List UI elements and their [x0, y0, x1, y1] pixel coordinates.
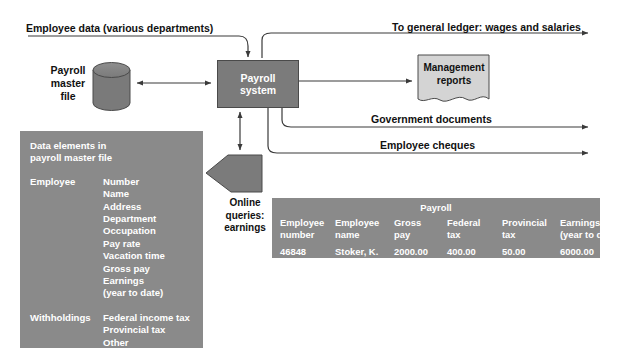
list-item: Provincial tax: [103, 324, 190, 336]
table-column: Federal tax 400.00: [447, 217, 502, 258]
list-item: Department: [103, 213, 165, 225]
data-elements-group-employee: Employee Number Name Address Department …: [30, 176, 203, 300]
table-header-line1: Gross: [394, 217, 447, 229]
master-file-label-line3: file: [44, 90, 92, 103]
list-item: Vacation time: [103, 250, 165, 262]
payroll-system-process[interactable]: Payroll system: [217, 60, 299, 108]
online-queries-label: Online queries: earnings: [215, 197, 275, 235]
payroll-table-grid: Employee number 46848 Employee name Stok…: [272, 217, 600, 258]
list-item: Number: [103, 176, 165, 188]
table-header-line1: Employee: [335, 217, 394, 229]
table-header-line2: (year to date): [560, 229, 621, 241]
data-elements-group-values: Number Name Address Department Occupatio…: [103, 176, 165, 300]
data-elements-title-line2: payroll master file: [30, 152, 203, 164]
table-header-line1: Federal: [447, 217, 502, 229]
table-header-line1: Provincial: [502, 217, 560, 229]
payroll-system-label-line1: Payroll: [240, 72, 275, 84]
table-header-line1: Earnings: [560, 217, 621, 229]
data-elements-group-withholdings: Withholdings Federal income tax Provinci…: [30, 312, 203, 349]
list-item: (year to date): [103, 287, 165, 299]
table-header-line2: pay: [394, 229, 447, 241]
payroll-table: Payroll Employee number 46848 Employee n…: [272, 198, 600, 258]
data-elements-group-key: Withholdings: [30, 312, 103, 349]
flow-label-employee-data: Employee data (various departments): [26, 22, 213, 34]
table-column-header: Earnings (year to date): [560, 217, 621, 241]
list-item: Federal income tax: [103, 312, 190, 324]
data-elements-group-values: Federal income tax Provincial tax Other: [103, 312, 190, 349]
data-elements-title: Data elements in payroll master file: [30, 140, 203, 165]
list-item: Earnings: [103, 275, 165, 287]
data-elements-panel: Data elements in payroll master file Emp…: [20, 131, 203, 348]
flow-general-ledger-line: [262, 33, 588, 58]
table-cell: 46848: [280, 246, 335, 258]
table-column-header: Provincial tax: [502, 217, 560, 241]
table-column: Employee name Stoker, K.: [335, 217, 394, 258]
data-elements-group-key: Employee: [30, 176, 103, 300]
management-reports-label: Management reports: [420, 62, 488, 87]
table-cell: Stoker, K.: [335, 246, 394, 258]
table-cell: 400.00: [447, 246, 502, 258]
data-elements-title-line1: Data elements in: [30, 140, 203, 152]
list-item: Occupation: [103, 225, 165, 237]
master-file-label-line2: master: [44, 77, 92, 90]
table-header-line2: tax: [502, 229, 560, 241]
table-cell: 50.00: [502, 246, 560, 258]
payroll-system-label-line2: system: [240, 84, 276, 96]
table-column-header: Employee name: [335, 217, 394, 241]
table-cell: 6000.00: [560, 246, 621, 258]
table-column: Provincial tax 50.00: [502, 217, 560, 258]
diagram-canvas: Payroll system Payroll master file Manag…: [0, 0, 621, 363]
table-header-line2: name: [335, 229, 394, 241]
list-item: Pay rate: [103, 238, 165, 250]
online-queries-label-line3: earnings: [215, 222, 275, 235]
flow-label-government-documents: Government documents: [371, 113, 492, 125]
flow-label-employee-cheques: Employee cheques: [380, 139, 475, 151]
master-file-label-line1: Payroll: [44, 64, 92, 77]
table-header-line2: tax: [447, 229, 502, 241]
payroll-master-file-label: Payroll master file: [44, 64, 92, 103]
list-item: Gross pay: [103, 263, 165, 275]
table-column-header: Gross pay: [394, 217, 447, 241]
table-column: Gross pay 2000.00: [394, 217, 447, 258]
table-column: Employee number 46848: [280, 217, 335, 258]
flow-employee-data-line: [28, 36, 248, 57]
online-queries-label-line2: queries:: [215, 210, 275, 223]
list-item: Address: [103, 201, 165, 213]
table-header-line2: number: [280, 229, 335, 241]
payroll-master-file-cylinder: [93, 63, 130, 111]
mgmt-reports-label-line2: reports: [420, 75, 488, 88]
table-column-header: Employee number: [280, 217, 335, 241]
online-queries-shape: [206, 155, 262, 192]
flow-label-general-ledger: To general ledger: wages and salaries: [392, 21, 581, 33]
list-item: Other: [103, 337, 190, 349]
mgmt-reports-label-line1: Management: [420, 62, 488, 75]
table-cell: 2000.00: [394, 246, 447, 258]
list-item: Name: [103, 188, 165, 200]
table-column-header: Federal tax: [447, 217, 502, 241]
table-header-line1: Employee: [280, 217, 335, 229]
online-queries-label-line1: Online: [215, 197, 275, 210]
table-column: Earnings (year to date) 6000.00: [560, 217, 621, 258]
payroll-table-title: Payroll: [272, 202, 600, 214]
